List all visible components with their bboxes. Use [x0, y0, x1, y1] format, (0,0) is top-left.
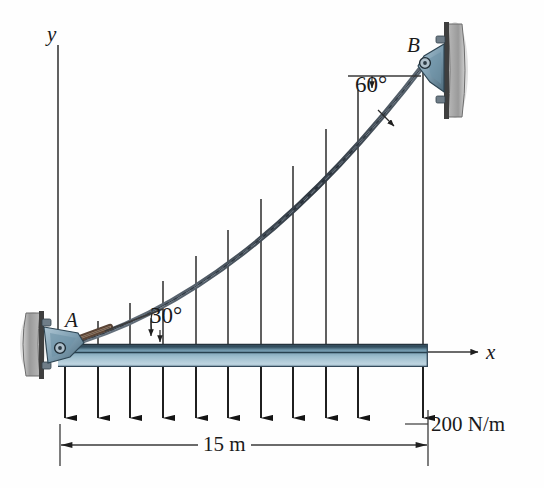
cable-outline — [58, 63, 425, 348]
dimension-label: 15 m — [198, 432, 251, 457]
support-b — [418, 22, 468, 119]
load-intensity-label: 200 N/m — [431, 412, 505, 437]
angle-60-label: 60° — [355, 72, 387, 98]
cable-curve — [58, 63, 425, 348]
bolt-b-top — [436, 36, 445, 43]
pin-a-center — [58, 346, 62, 350]
wall-plate-b — [448, 24, 465, 117]
axis-group — [58, 45, 478, 352]
wall-plate-a — [23, 313, 40, 376]
angle-30-label: 30° — [150, 303, 182, 329]
pin-b-center — [423, 61, 427, 65]
cable — [58, 63, 425, 348]
y-axis-label: y — [47, 22, 56, 47]
beam-body — [58, 344, 428, 367]
support-b-label: B — [407, 33, 420, 58]
cable-highlight — [58, 63, 425, 348]
beam — [58, 344, 428, 367]
engineering-figure: y x A B 60° 30° 15 m 200 N/m — [0, 0, 544, 488]
bolt-b-bottom — [436, 96, 445, 103]
distributed-load-arrows — [65, 367, 423, 418]
bolt-a-top — [42, 319, 51, 326]
hanger-lines — [65, 66, 423, 347]
support-a-label: A — [65, 308, 78, 333]
x-axis-label: x — [486, 340, 495, 365]
